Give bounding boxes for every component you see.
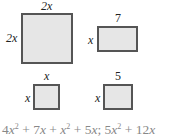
small-square-5-top-label: 5	[115, 70, 121, 82]
small-square-5-side-label: x	[95, 92, 100, 104]
rectangle	[97, 26, 138, 52]
big-square-top-label: 2x	[41, 0, 52, 12]
small-square-x-side-label: x	[25, 92, 30, 104]
area-expression: 4x2 + 7x + x2 + 5x; 5x2 + 12x	[2, 122, 155, 137]
big-square	[21, 13, 73, 64]
rectangle-top-label: 7	[115, 12, 121, 24]
small-square-5	[103, 84, 133, 110]
big-square-side-label: 2x	[6, 32, 17, 44]
small-square-x-top-label: x	[44, 70, 49, 82]
small-square-x	[33, 84, 60, 110]
rectangle-side-label: x	[88, 34, 93, 46]
